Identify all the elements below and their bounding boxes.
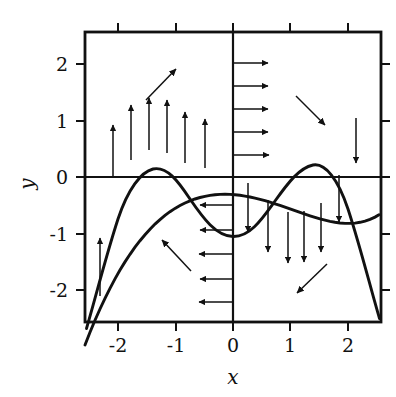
y-tick-label-0: 0 xyxy=(56,166,68,188)
y-tick-label-neg1: -1 xyxy=(49,223,68,245)
x-tick-label-neg1: -1 xyxy=(167,334,186,356)
y-tick-label-2: 2 xyxy=(56,53,68,75)
x-tick-label-0: 0 xyxy=(227,334,239,356)
figure-container: 2 1 0 -1 -2 -2 -1 0 1 2 x y xyxy=(0,0,396,397)
x-tick-label-1: 1 xyxy=(284,334,296,356)
x-tick-label-2: 2 xyxy=(342,334,354,356)
y-axis-label: y xyxy=(15,178,39,191)
direction-field-plot: 2 1 0 -1 -2 -2 -1 0 1 2 x y xyxy=(0,0,396,397)
y-tick-label-neg2: -2 xyxy=(49,279,68,301)
x-axis-label: x xyxy=(227,365,238,389)
y-tick-label-1: 1 xyxy=(56,110,68,132)
x-tick-label-neg2: -2 xyxy=(109,334,128,356)
